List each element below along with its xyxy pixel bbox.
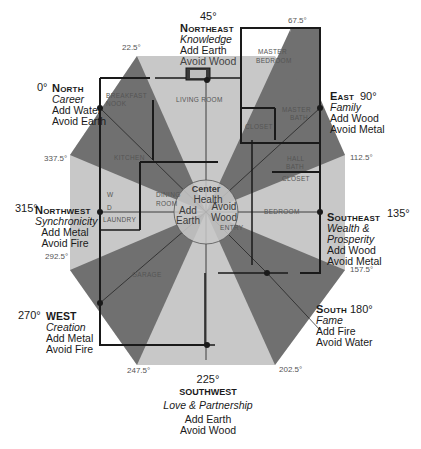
- south-avoid: Avoid Water: [316, 337, 373, 348]
- label-west: WEST Creation Add Metal Avoid Fire: [46, 311, 93, 355]
- tick-292-5: 292.5°: [45, 252, 68, 261]
- label-north: North Career Add Water Avoid Earth: [52, 83, 106, 127]
- label-southeast: Southeast Wealth & Prosperity Add Wood A…: [327, 212, 382, 267]
- room-hall-bath-2: BATH: [286, 163, 304, 170]
- room-laundry: LAUNDRY: [103, 216, 136, 223]
- label-northeast: Northeast Knowledge Add Earth Avoid Wood: [180, 23, 236, 67]
- room-master-bedroom-2: BEDROOM: [256, 57, 292, 64]
- north-avoid: Avoid Earth: [52, 116, 106, 127]
- room-breakfast-nook-2: NOOK: [106, 100, 127, 107]
- label-northwest: Northwest Synchronicity Add Metal Avoid …: [35, 205, 95, 249]
- northeast-degree: 45°: [200, 11, 217, 22]
- room-dryer: D: [107, 204, 112, 211]
- tick-202-5: 202.5°: [279, 365, 302, 374]
- west-degree: 270°: [18, 310, 41, 321]
- tick-67-5: 67.5°: [288, 16, 307, 25]
- north-degree: 0°: [37, 82, 48, 93]
- room-kitchen: KITCHEN: [114, 154, 145, 161]
- south-degree: 180°: [350, 303, 373, 315]
- southwest-avoid: Avoid Wood: [148, 425, 268, 436]
- room-dining-2: ROOM: [156, 200, 177, 207]
- room-washer: W: [107, 191, 114, 198]
- label-south: South 180° Fame Add Fire Avoid Water: [316, 304, 373, 348]
- room-dining-1: DINING: [156, 191, 181, 198]
- room-entry: ENTRY: [220, 224, 244, 231]
- east-avoid: Avoid Metal: [330, 124, 385, 135]
- tick-112-5: 112.5°: [350, 153, 373, 162]
- room-garage: GARAGE: [132, 271, 162, 278]
- southeast-avoid: Avoid Metal: [327, 256, 382, 267]
- room-bedroom: BEDROOM: [264, 208, 300, 215]
- west-avoid: Avoid Fire: [46, 344, 93, 355]
- southeast-degree: 135°: [387, 208, 410, 219]
- label-southwest: 225° SOUTHWEST Love & Partnership Add Ea…: [148, 374, 268, 436]
- tick-22-5: 22.5°: [122, 43, 141, 52]
- southwest-name: SOUTHWEST: [148, 387, 268, 398]
- room-living-room: LIVING ROOM: [176, 96, 223, 103]
- northeast-avoid: Avoid Wood: [180, 56, 236, 67]
- northwest-avoid: Avoid Fire: [35, 238, 95, 249]
- southwest-degree: 225°: [148, 374, 268, 385]
- southwest-area: Love & Partnership: [148, 400, 268, 411]
- east-degree: 90°: [360, 90, 377, 102]
- center-add-2: Earth: [176, 215, 200, 226]
- room-hall-bath-1: HALL: [287, 155, 305, 162]
- center-circle: Center Health Add Earth Avoid Wood: [174, 180, 238, 244]
- center-title: Center: [192, 184, 221, 194]
- tick-337-5: 337.5°: [44, 154, 67, 163]
- center-avoid-2: Wood: [211, 212, 237, 223]
- room-master-bath-1: MASTER: [282, 106, 311, 113]
- center-avoid-1: Avoid: [212, 201, 237, 212]
- room-breakfast-nook-1: BREAKFAST: [106, 92, 147, 99]
- room-master-bath-2: BATH: [290, 114, 308, 121]
- room-closet-1: CLOSET: [245, 123, 273, 130]
- tick-247-5: 247.5°: [127, 366, 150, 375]
- room-closet-2: CLOSET: [282, 175, 310, 182]
- label-east: East 90° Family Add Wood Avoid Metal: [330, 91, 385, 135]
- room-master-bedroom-1: MASTER: [258, 48, 287, 55]
